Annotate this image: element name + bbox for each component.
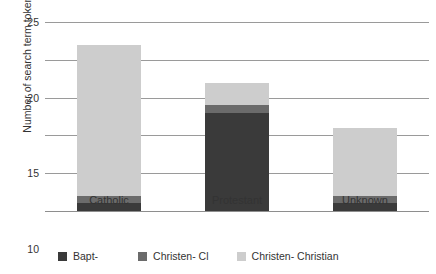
bar-protestant[interactable] [205, 83, 269, 211]
y-tick-label-10: 10 [27, 243, 39, 255]
bar-segment-protestant-1[interactable] [205, 105, 269, 113]
bar-segment-catholic-2[interactable] [77, 45, 141, 196]
legend-label-0: Bapt- [73, 250, 98, 262]
bar-segment-protestant-2[interactable] [205, 83, 269, 106]
plot-area: 0510152025 [45, 22, 429, 211]
legend-swatch-icon-0 [58, 252, 67, 261]
x-tick-label-unknown: Unknown [295, 194, 435, 206]
bar-segment-unknown-2[interactable] [333, 128, 397, 196]
legend-label-1: Christen- Cl [153, 250, 208, 262]
chart-figure: Number of search term tokens 0510152025 … [0, 0, 436, 274]
bar-catholic[interactable] [77, 45, 141, 211]
y-tick-label-15: 15 [27, 167, 39, 179]
y-tick-label-20: 20 [27, 92, 39, 104]
chart-legend: Bapt-Christen- ClChristen- Christian [58, 250, 339, 262]
legend-swatch-icon-2 [237, 252, 246, 261]
legend-swatch-icon-1 [138, 252, 147, 261]
legend-item-0[interactable]: Bapt- [58, 250, 98, 262]
legend-label-2: Christen- Christian [252, 250, 339, 262]
legend-item-1[interactable]: Christen- Cl [138, 250, 208, 262]
y-tick-label-25: 25 [27, 16, 39, 28]
x-tick-label-protestant: Protestant [167, 194, 307, 206]
x-tick-label-catholic: Catholic [39, 194, 179, 206]
clipped-caption-text [0, 0, 436, 3]
gridline-25: 25 [45, 22, 429, 23]
legend-item-2[interactable]: Christen- Christian [237, 250, 339, 262]
gridline-0: 0 [45, 211, 429, 212]
